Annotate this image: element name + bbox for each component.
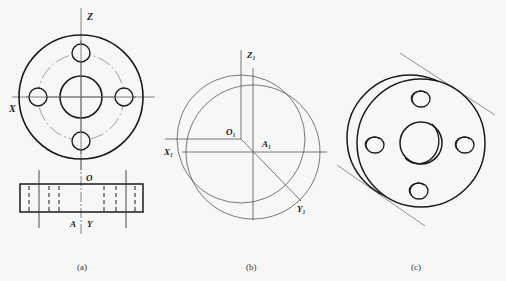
flange-side-rect (20, 184, 143, 212)
caption-a: (a) (77, 262, 87, 272)
label-a1: A₁ (261, 139, 271, 149)
label-a: A (69, 219, 76, 229)
caption-c: (c) (411, 262, 421, 272)
label-x: X (8, 103, 16, 114)
figure-c-isometric (337, 53, 495, 226)
label-z: Z (86, 11, 93, 22)
label-x1: X₁ (163, 147, 173, 157)
caption-b: (b) (246, 262, 257, 272)
figure-b-construction: Z₁ O₁ X₁ A₁ Y₁ (163, 50, 327, 220)
drawing: Z X O A Y (a) Z₁ O₁ X₁ A₁ Y₁ ( (0, 0, 506, 281)
label-z1: Z₁ (246, 50, 256, 60)
label-y1: Y₁ (297, 204, 306, 214)
hidden-lines (29, 186, 135, 211)
front-face-circle (357, 79, 485, 207)
figure-canvas: Z X O A Y (a) Z₁ O₁ X₁ A₁ Y₁ ( (0, 0, 506, 281)
label-o: O (86, 173, 93, 183)
figure-a-front-view: O A Y (20, 160, 143, 235)
figure-a-top-view: Z X (8, 8, 155, 170)
label-o1: O₁ (226, 127, 236, 137)
label-y: Y (87, 219, 94, 229)
